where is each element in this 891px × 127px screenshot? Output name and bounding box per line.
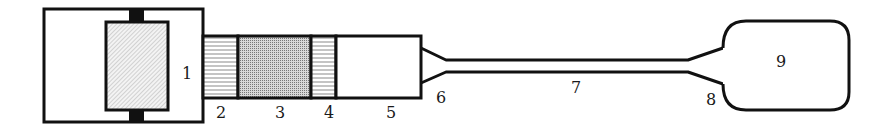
apparatus-diagram: 1 2 3 4 5 6 7 8 9 xyxy=(0,0,891,127)
section-5 xyxy=(336,36,421,98)
label-8: 8 xyxy=(706,90,716,109)
label-6: 6 xyxy=(436,88,446,107)
tube-upper-wall xyxy=(421,48,723,60)
label-5: 5 xyxy=(386,103,396,122)
top-clamp-icon xyxy=(129,9,144,22)
label-4: 4 xyxy=(324,103,334,122)
column-strip xyxy=(203,36,421,98)
housing-component-1 xyxy=(44,9,203,122)
section-4 xyxy=(311,36,336,98)
bottom-clamp-icon xyxy=(129,110,144,122)
label-3: 3 xyxy=(275,103,285,122)
section-2 xyxy=(203,36,238,98)
label-1: 1 xyxy=(182,64,192,83)
section-3 xyxy=(238,36,311,98)
label-2: 2 xyxy=(216,103,226,122)
label-9: 9 xyxy=(776,52,786,71)
label-7: 7 xyxy=(571,78,581,97)
